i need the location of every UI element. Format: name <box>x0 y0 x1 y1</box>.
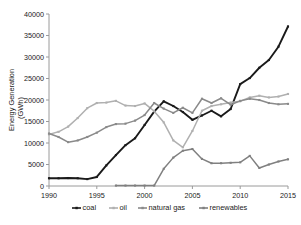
data-point-renewables <box>144 185 146 187</box>
data-point-natural-gas <box>67 141 69 143</box>
data-point-renewables <box>268 163 270 165</box>
data-point-oil <box>105 102 107 104</box>
data-point-coal <box>210 110 212 112</box>
data-point-coal <box>86 178 88 180</box>
data-point-natural-gas <box>277 103 279 105</box>
legend-marker-oil <box>112 207 114 209</box>
data-point-natural-gas <box>124 123 126 125</box>
data-point-coal <box>191 119 193 121</box>
x-tick-label: 1990 <box>41 191 57 200</box>
data-point-natural-gas <box>210 102 212 104</box>
data-point-natural-gas <box>172 112 174 114</box>
data-point-oil <box>268 96 270 98</box>
legend-label-oil[interactable]: oil <box>120 203 128 212</box>
data-point-oil <box>115 100 117 102</box>
data-point-renewables <box>220 162 222 164</box>
data-point-renewables <box>153 185 155 187</box>
data-point-renewables <box>163 168 165 170</box>
x-tick-label: 2000 <box>137 191 153 200</box>
data-point-oil <box>144 102 146 104</box>
data-point-coal <box>172 105 174 107</box>
x-tick-label: 2010 <box>232 191 248 200</box>
y-tick-label: 35000 <box>24 31 44 40</box>
data-point-natural-gas <box>153 102 155 104</box>
data-point-oil <box>77 117 79 119</box>
data-point-natural-gas <box>86 136 88 138</box>
data-point-renewables <box>191 148 193 150</box>
data-point-oil <box>67 126 69 128</box>
data-point-natural-gas <box>134 120 136 122</box>
data-point-natural-gas <box>287 103 289 105</box>
legend-label-natural-gas[interactable]: natural gas <box>149 203 186 212</box>
data-point-coal <box>124 144 126 146</box>
data-point-renewables <box>182 150 184 152</box>
y-axis-title-units: (GWh) <box>16 97 25 119</box>
series-line-renewables <box>116 149 288 186</box>
data-point-coal <box>258 67 260 69</box>
data-point-natural-gas <box>182 107 184 109</box>
x-tick-label: 1995 <box>89 191 105 200</box>
data-point-coal <box>230 108 232 110</box>
data-point-oil <box>172 139 174 141</box>
y-tick-label: 30000 <box>24 53 44 62</box>
data-point-natural-gas <box>249 98 251 100</box>
data-point-coal <box>220 115 222 117</box>
legend-label-coal[interactable]: coal <box>83 203 97 212</box>
y-tick-label: 10000 <box>24 139 44 148</box>
y-axis-tick-labels: 0500010000150002000025000300003500040000 <box>24 10 49 191</box>
data-point-oil <box>153 110 155 112</box>
y-tick-label: 5000 <box>28 160 44 169</box>
data-point-renewables <box>277 160 279 162</box>
data-point-coal <box>96 176 98 178</box>
data-point-coal <box>144 124 146 126</box>
data-point-renewables <box>230 162 232 164</box>
data-point-natural-gas <box>58 136 60 138</box>
data-point-coal <box>249 77 251 79</box>
legend-marker-coal <box>75 207 77 209</box>
series-line-oil <box>49 94 288 147</box>
legend-marker-natural-gas <box>141 207 143 209</box>
data-point-renewables <box>239 161 241 163</box>
data-point-renewables <box>124 185 126 187</box>
data-point-coal <box>268 59 270 61</box>
y-tick-label: 25000 <box>24 74 44 83</box>
data-point-coal <box>182 111 184 113</box>
data-point-natural-gas <box>144 114 146 116</box>
y-tick-label: 15000 <box>24 117 44 126</box>
data-point-coal <box>48 177 50 179</box>
data-point-coal <box>58 177 60 179</box>
data-point-natural-gas <box>115 123 117 125</box>
data-point-renewables <box>172 157 174 159</box>
y-tick-label: 0 <box>40 182 44 191</box>
data-point-oil <box>86 107 88 109</box>
data-point-oil <box>96 102 98 104</box>
y-tick-label: 20000 <box>24 96 44 105</box>
data-point-coal <box>287 25 289 27</box>
data-point-natural-gas <box>191 112 193 114</box>
data-point-oil <box>220 103 222 105</box>
energy-generation-line-chart: 0500010000150002000025000300003500040000… <box>0 0 301 225</box>
x-tick-label: 2015 <box>280 191 296 200</box>
chart-canvas: 0500010000150002000025000300003500040000… <box>0 0 301 225</box>
y-tick-label: 40000 <box>24 10 44 19</box>
data-point-natural-gas <box>258 99 260 101</box>
data-point-oil <box>134 105 136 107</box>
data-point-oil <box>58 131 60 133</box>
data-point-coal <box>105 164 107 166</box>
data-point-renewables <box>287 158 289 160</box>
data-point-oil <box>287 93 289 95</box>
data-point-renewables <box>258 167 260 169</box>
x-tick-label: 2005 <box>184 191 200 200</box>
data-point-oil <box>124 105 126 107</box>
chart-legend: coaloilnatural gasrenewables <box>72 203 248 212</box>
x-axis-tick-labels: 199019952000200520102015 <box>41 186 296 200</box>
data-point-natural-gas <box>220 97 222 99</box>
data-point-natural-gas <box>230 104 232 106</box>
data-point-natural-gas <box>96 132 98 134</box>
data-point-natural-gas <box>77 139 79 141</box>
legend-label-renewables[interactable]: renewables <box>210 203 248 212</box>
data-point-oil <box>230 102 232 104</box>
data-point-natural-gas <box>239 100 241 102</box>
data-point-coal <box>67 177 69 179</box>
legend-marker-renewables <box>202 207 204 209</box>
